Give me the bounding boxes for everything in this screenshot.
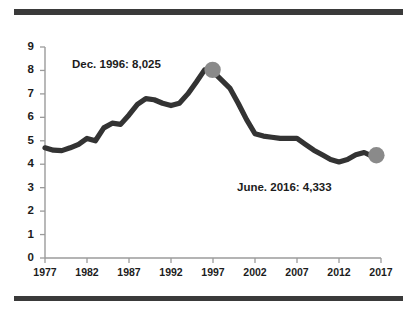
peak-annotation-label: Dec. 1996: 8,025 [72,58,161,70]
x-tick-label: 2017 [361,266,401,278]
chart-figure: 9 8 7 6 5 4 3 2 1 0 1977 1982 1987 1992 … [0,0,417,313]
x-tick-label: 1987 [109,266,149,278]
y-tick-label: 5 [20,134,34,146]
end-marker [368,147,384,163]
y-tick-label: 4 [20,157,34,169]
top-divider-rule [14,9,403,15]
x-tick-label: 1982 [67,266,107,278]
x-tick-label: 1977 [25,266,65,278]
x-tick-label: 2007 [277,266,317,278]
x-tick-label: 1992 [151,266,191,278]
x-tick-label: 2012 [319,266,359,278]
y-tick-label: 8 [20,63,34,75]
x-tick-marks [45,258,381,263]
chart-plot-area: 9 8 7 6 5 4 3 2 1 0 1977 1982 1987 1992 … [0,22,417,294]
y-tick-label: 9 [20,40,34,52]
y-tick-marks [40,47,45,258]
end-annotation-label: June. 2016: 4,333 [237,181,332,193]
y-tick-label: 2 [20,204,34,216]
y-tick-label: 1 [20,228,34,240]
y-tick-label: 7 [20,87,34,99]
y-tick-label: 3 [20,181,34,193]
bottom-divider-rule [14,296,403,301]
data-series-line [45,70,373,162]
y-tick-label: 6 [20,110,34,122]
x-tick-label: 2002 [235,266,275,278]
x-tick-label: 1997 [193,266,233,278]
y-tick-label: 0 [20,251,34,263]
chart-svg [0,22,417,294]
peak-marker [204,62,220,78]
